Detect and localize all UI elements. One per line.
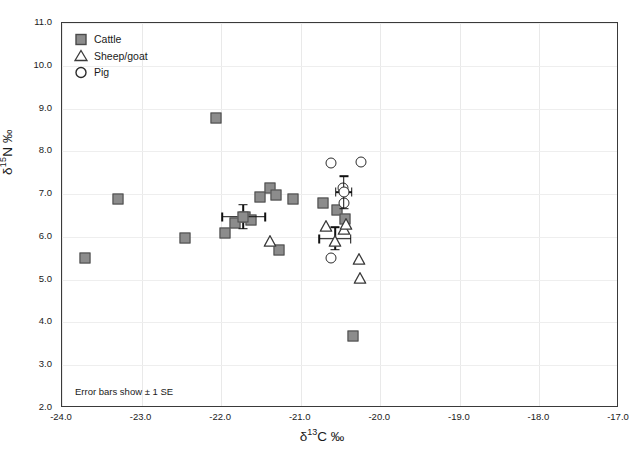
x-tick-label: -21.0 [270, 412, 330, 422]
data-point-sheep-goat [353, 270, 366, 282]
data-point-sheep-goat [264, 233, 277, 245]
legend-label-pig: Pig [94, 64, 109, 81]
y-tick-label: 3.0 [0, 359, 52, 369]
data-point-pig [325, 158, 336, 169]
data-point-cattle [348, 331, 359, 342]
legend-item-pig: Pig [74, 64, 148, 81]
y-tick-label: 7.0 [0, 188, 52, 198]
error-bar-cap-pig [351, 188, 353, 197]
data-point-cattle [80, 253, 91, 264]
gridline-vertical [539, 23, 540, 406]
figure-container: δ15N ‰ 11.010.09.08.07.06.05.04.03.02.0 … [0, 0, 644, 460]
x-tick-label: -22.0 [190, 412, 250, 422]
plot-area: Cattle Sheep/goat Pig Error bars show ± … [61, 22, 618, 407]
y-axis-title: δ15N ‰ [0, 55, 15, 175]
data-point-cattle [210, 112, 221, 123]
y-tick-label: 9.0 [0, 103, 52, 113]
error-bar-cap-cattle [221, 212, 223, 221]
gridline-horizontal [62, 109, 617, 110]
error-bar-cap-pig [339, 208, 348, 210]
error-bar-note: Error bars show ± 1 SE [75, 386, 173, 397]
legend: Cattle Sheep/goat Pig [74, 31, 148, 81]
mean-marker-sheep-goat [328, 233, 341, 245]
gridline-horizontal [62, 151, 617, 152]
y-tick-label: 6.0 [0, 231, 52, 241]
error-bar-cap-pig [335, 188, 337, 197]
x-tick-label: -18.0 [508, 412, 568, 422]
gridline-vertical [62, 23, 63, 406]
data-point-sheep-goat [352, 251, 365, 263]
legend-label-cattle: Cattle [94, 31, 121, 48]
x-tick-label: -20.0 [349, 412, 409, 422]
mean-marker-cattle [238, 211, 249, 222]
gridline-horizontal [62, 365, 617, 366]
x-tick-label: -23.0 [111, 412, 171, 422]
error-bar-cap-cattle [239, 204, 248, 206]
data-point-cattle [317, 198, 328, 209]
y-tick-label: 10.0 [0, 60, 52, 70]
gridline-vertical [460, 23, 461, 406]
error-bar-cap-cattle [239, 228, 248, 230]
data-point-pig [356, 157, 367, 168]
error-bar-cap-cattle [264, 212, 266, 221]
x-tick-label: -24.0 [31, 412, 91, 422]
data-point-cattle [255, 191, 266, 202]
data-point-pig [325, 253, 336, 264]
gridline-horizontal [62, 280, 617, 281]
gridline-vertical [301, 23, 302, 406]
data-point-cattle [287, 193, 298, 204]
gridline-vertical [380, 23, 381, 406]
error-bar-cap-sheep-goat [318, 234, 320, 243]
data-point-sheep-goat [340, 216, 353, 228]
data-point-cattle [180, 232, 191, 243]
data-point-cattle [271, 189, 282, 200]
gridline-horizontal [62, 322, 617, 323]
filled-square-icon [74, 33, 89, 46]
x-tick-label: -19.0 [429, 412, 489, 422]
legend-item-sheep-goat: Sheep/goat [74, 48, 148, 65]
data-point-cattle [220, 227, 231, 238]
error-bar-cap-sheep-goat [350, 234, 352, 243]
error-bar-cap-sheep-goat [330, 249, 339, 251]
x-tick-label: -17.0 [588, 412, 644, 422]
mean-marker-pig [338, 187, 349, 198]
open-triangle-icon [74, 49, 89, 62]
error-bar-cap-pig [339, 175, 348, 177]
y-tick-label: 11.0 [0, 17, 52, 27]
error-bar-cap-sheep-goat [330, 227, 339, 229]
gridline-horizontal [62, 23, 617, 24]
y-tick-label: 4.0 [0, 316, 52, 326]
y-tick-label: 8.0 [0, 145, 52, 155]
legend-item-cattle: Cattle [74, 31, 148, 48]
y-tick-label: 2.0 [0, 402, 52, 412]
y-tick-label: 5.0 [0, 274, 52, 284]
legend-label-sheep-goat: Sheep/goat [94, 48, 148, 65]
data-point-cattle [113, 193, 124, 204]
x-axis-title: δ13C ‰ [0, 427, 644, 444]
open-circle-icon [74, 66, 89, 79]
